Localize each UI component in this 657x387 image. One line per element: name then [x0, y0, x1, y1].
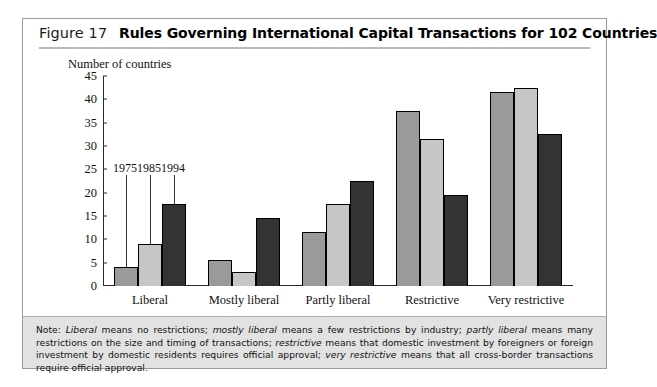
year-label-1994: 1994 — [161, 161, 185, 176]
y-tick-label: 35 — [85, 115, 98, 130]
y-tick-label: 5 — [91, 255, 97, 270]
note-term-very-restrictive: very restrictive — [325, 349, 396, 360]
figure-header: Figure 17 Rules Governing International … — [23, 19, 606, 49]
bar-1985-mostly-liberal — [232, 272, 256, 286]
bar-1975-liberal — [114, 267, 138, 286]
bar-1994-partly-liberal — [350, 181, 374, 286]
leader-line-1975 — [126, 175, 127, 267]
bar-group — [291, 76, 385, 286]
bar-1994-very-restrictive — [538, 134, 562, 286]
x-axis-labels: LiberalMostly liberalPartly liberalRestr… — [103, 293, 573, 308]
plot-axes: 051015202530354045 197519851994 — [103, 76, 573, 286]
year-label-1975: 1975 — [113, 161, 137, 176]
bar-1985-very-restrictive — [514, 88, 538, 286]
bar-1985-partly-liberal — [326, 204, 350, 286]
bar-1985-restrictive — [420, 139, 444, 286]
y-tick-label: 40 — [85, 92, 98, 107]
x-tick-label: Mostly liberal — [197, 293, 291, 308]
bar-group — [479, 76, 573, 286]
note-text: Note: Liberal means no restrictions; mos… — [36, 324, 593, 375]
y-tick-label: 20 — [85, 185, 98, 200]
figure-note: Note: Liberal means no restrictions; mos… — [23, 316, 606, 368]
bar-1975-very-restrictive — [490, 92, 514, 286]
y-tick-label: 25 — [85, 162, 98, 177]
y-tick-label: 45 — [85, 69, 98, 84]
y-tick-label: 0 — [91, 279, 97, 294]
note-term-mostly-liberal: mostly liberal — [213, 324, 277, 335]
x-tick-label: Liberal — [103, 293, 197, 308]
bar-1985-liberal — [138, 244, 162, 286]
note-term-partly-liberal: partly liberal — [467, 324, 527, 335]
figure-number: Figure 17 — [39, 25, 107, 41]
leader-line-1985 — [150, 175, 151, 244]
x-tick-label: Very restrictive — [479, 293, 573, 308]
figure-title: Rules Governing International Capital Tr… — [119, 25, 657, 41]
leader-line-1994 — [174, 175, 175, 204]
y-tick-label: 10 — [85, 232, 98, 247]
y-tick-label: 15 — [85, 209, 98, 224]
bar-group — [197, 76, 291, 286]
bar-1975-mostly-liberal — [208, 260, 232, 286]
y-tick-label: 30 — [85, 139, 98, 154]
figure-panel: Figure 17 Rules Governing International … — [22, 18, 607, 369]
bar-group — [385, 76, 479, 286]
bar-1994-restrictive — [444, 195, 468, 286]
bar-1994-mostly-liberal — [256, 218, 280, 286]
year-label-1985: 1985 — [137, 161, 161, 176]
bar-1975-restrictive — [396, 111, 420, 286]
note-term-restrictive: restrictive — [275, 337, 321, 348]
x-tick-label: Restrictive — [385, 293, 479, 308]
note-prefix: Note: — [36, 324, 61, 335]
bar-1994-liberal — [162, 204, 186, 286]
note-term-liberal: Liberal — [66, 324, 97, 335]
chart-area: Number of countries 051015202530354045 1… — [23, 49, 606, 333]
x-tick-label: Partly liberal — [291, 293, 385, 308]
bar-1975-partly-liberal — [302, 232, 326, 286]
